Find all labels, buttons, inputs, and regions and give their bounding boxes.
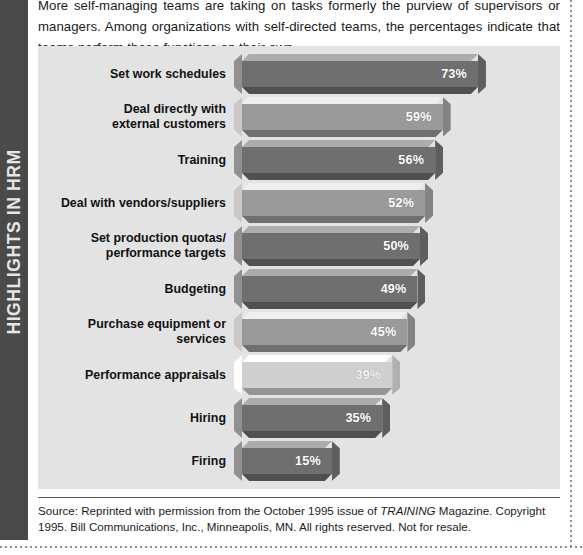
page-trim-rule-bottom bbox=[0, 546, 583, 548]
bar-category-label-line: external customers bbox=[38, 117, 226, 132]
bar-category-label-line: Performance appraisals bbox=[38, 368, 226, 383]
bar-wrapper: 52% bbox=[242, 183, 425, 223]
bar-category-label: Set work schedules bbox=[38, 67, 234, 82]
chart-row: Set production quotas/performance target… bbox=[38, 226, 560, 266]
bar-value-label: 35% bbox=[345, 411, 371, 425]
bar-value-label: 15% bbox=[295, 454, 321, 468]
chart-row: Performance appraisals39% bbox=[38, 355, 560, 395]
bar-category-label: Performance appraisals bbox=[38, 368, 234, 383]
chart-row: Budgeting49% bbox=[38, 269, 560, 309]
source-divider bbox=[38, 497, 560, 498]
bar-bevel-left bbox=[234, 355, 242, 395]
source-prefix: Source: Reprinted with permission from t… bbox=[38, 504, 380, 517]
bar-wrapper: 45% bbox=[242, 312, 407, 352]
sidebar-title: HIGHLIGHTS IN HRM bbox=[4, 149, 25, 334]
bar-wrapper: 56% bbox=[242, 140, 435, 180]
bar-category-label: Purchase equipment or services bbox=[38, 317, 234, 347]
bar: 15% bbox=[242, 448, 332, 474]
chart-row: Purchase equipment or services45% bbox=[38, 312, 560, 352]
chart-row: Deal directly withexternal customers59% bbox=[38, 97, 560, 137]
bar-bevel-right bbox=[443, 97, 451, 137]
bar-bevel-right bbox=[435, 140, 443, 180]
bar-category-label: Set production quotas/performance target… bbox=[38, 231, 234, 261]
bar-bevel-right bbox=[417, 269, 425, 309]
bar-category-label: Deal with vendors/suppliers bbox=[38, 196, 234, 211]
bar-category-label: Deal directly withexternal customers bbox=[38, 102, 234, 132]
bar-category-label-line: performance targets bbox=[38, 246, 226, 261]
bar-bevel-left bbox=[234, 226, 242, 266]
chart-row: Hiring35% bbox=[38, 398, 560, 438]
bar-category-label-line: Deal directly with bbox=[38, 102, 226, 117]
bar-bevel-left bbox=[234, 441, 242, 481]
bar: 39% bbox=[242, 362, 392, 388]
bar-category-label-line: Firing bbox=[38, 454, 226, 469]
bar: 35% bbox=[242, 405, 382, 431]
chart-row: Firing15% bbox=[38, 441, 560, 481]
bar-bevel-right bbox=[425, 183, 433, 223]
bar-wrapper: 15% bbox=[242, 441, 332, 481]
chart-row: Deal with vendors/suppliers52% bbox=[38, 183, 560, 223]
bar-wrapper: 50% bbox=[242, 226, 420, 266]
bar: 49% bbox=[242, 276, 417, 302]
bar-wrapper: 39% bbox=[242, 355, 392, 395]
source-magazine-name: TRAINING bbox=[380, 504, 435, 517]
bar-wrapper: 35% bbox=[242, 398, 382, 438]
bar-value-label: 52% bbox=[388, 196, 414, 210]
bar-category-label-line: Set work schedules bbox=[38, 67, 226, 82]
bar-category-label-line: Set production quotas/ bbox=[38, 231, 226, 246]
bar-bevel-left bbox=[234, 312, 242, 352]
bar-bevel-left bbox=[234, 269, 242, 309]
bar-category-label-line: Training bbox=[38, 153, 226, 168]
bar-bevel-right bbox=[420, 226, 428, 266]
bar-value-label: 56% bbox=[398, 153, 424, 167]
chart-row: Training56% bbox=[38, 140, 560, 180]
bar-value-label: 59% bbox=[406, 110, 432, 124]
bar-category-label: Firing bbox=[38, 454, 234, 469]
bar: 45% bbox=[242, 319, 407, 345]
bar-bevel-left bbox=[234, 183, 242, 223]
bar-wrapper: 59% bbox=[242, 97, 443, 137]
page-trim-rule-right bbox=[570, 0, 572, 546]
bar-bevel-left bbox=[234, 54, 242, 94]
bar-value-label: 39% bbox=[355, 368, 381, 382]
bar-category-label-line: Budgeting bbox=[38, 282, 226, 297]
bar-category-label: Budgeting bbox=[38, 282, 234, 297]
chart-row: Set work schedules73% bbox=[38, 54, 560, 94]
bar-bevel-left bbox=[234, 140, 242, 180]
bar-wrapper: 49% bbox=[242, 269, 417, 309]
sidebar-rotated-wrap: HIGHLIGHTS IN HRM bbox=[0, 0, 28, 512]
sidebar-tab: HIGHLIGHTS IN HRM bbox=[0, 0, 28, 540]
bar: 52% bbox=[242, 190, 425, 216]
bar-value-label: 50% bbox=[383, 239, 409, 253]
bar-value-label: 49% bbox=[381, 282, 407, 296]
bar-category-label: Hiring bbox=[38, 411, 234, 426]
bar-bevel-right bbox=[382, 398, 390, 438]
bar-category-label-line: Deal with vendors/suppliers bbox=[38, 196, 226, 211]
bar-value-label: 45% bbox=[371, 325, 397, 339]
bar: 50% bbox=[242, 233, 420, 259]
bar-value-label: 73% bbox=[441, 67, 467, 81]
bar-bevel-left bbox=[234, 398, 242, 438]
bar-bevel-right bbox=[392, 355, 400, 395]
bar-bevel-right bbox=[478, 54, 486, 94]
bar-wrapper: 73% bbox=[242, 54, 478, 94]
bar-category-label: Training bbox=[38, 153, 234, 168]
bar: 73% bbox=[242, 61, 478, 87]
bar-category-label-line: Hiring bbox=[38, 411, 226, 426]
bar-chart: Set work schedules73%Deal directly withe… bbox=[38, 46, 560, 489]
bar-category-label-line: Purchase equipment or services bbox=[38, 317, 226, 347]
exhibit-page: HIGHLIGHTS IN HRM More self-managing tea… bbox=[0, 0, 583, 555]
bar-bevel-right bbox=[332, 441, 340, 481]
bar-bevel-left bbox=[234, 97, 242, 137]
bar: 56% bbox=[242, 147, 435, 173]
bar-bevel-right bbox=[407, 312, 415, 352]
source-note: Source: Reprinted with permission from t… bbox=[38, 503, 562, 534]
bar: 59% bbox=[242, 104, 443, 130]
